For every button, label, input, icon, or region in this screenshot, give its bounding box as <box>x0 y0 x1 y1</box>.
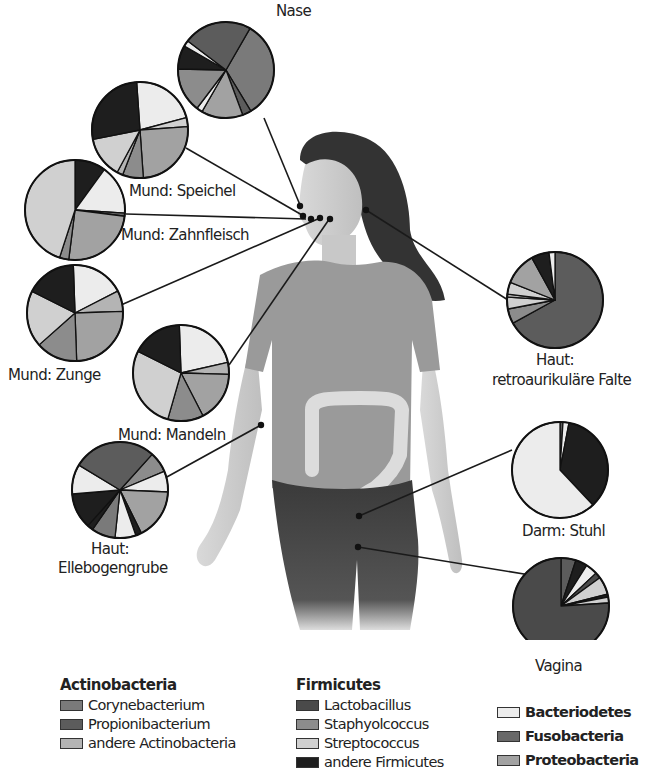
site-marker <box>258 422 264 428</box>
site-marker <box>300 213 306 219</box>
label-ellbogen1: Haut: <box>91 540 129 558</box>
legend-label: Corynebacterium <box>88 696 205 715</box>
pie-slice-prot <box>140 127 188 178</box>
pie-vagina <box>513 558 609 640</box>
legend-group-title: Actinobacteria <box>60 676 236 695</box>
legend-item-prop: Propionibacterium <box>60 715 236 734</box>
legend-item-lact: Lactobacillus <box>296 696 444 715</box>
site-marker <box>356 513 362 519</box>
legend-item-stap: Staphyolcoccus <box>296 715 444 734</box>
pie-mund-speichel <box>92 82 188 178</box>
legend-item-fuso: Fusobacteria <box>497 724 639 748</box>
legend-swatch <box>497 755 520 766</box>
microbiome-figure: NaseMund: SpeichelMund: ZahnfleischMund:… <box>0 0 647 784</box>
pie-mund-zunge <box>27 265 123 361</box>
legend-item-firo: andere Firmicutes <box>296 753 444 772</box>
legend-swatch <box>60 719 83 730</box>
label-zunge: Mund: Zunge <box>8 366 101 384</box>
legend-item-bact: Bacteriodetes <box>497 700 639 724</box>
legend-swatch <box>296 757 319 768</box>
legend-label: Bacteriodetes <box>525 703 631 722</box>
pie-mund-zahnfleisch <box>25 160 125 260</box>
shirt-shape <box>245 261 440 498</box>
site-marker <box>308 216 314 222</box>
label-nase: Nase <box>276 2 311 20</box>
label-ellbogen2: Ellebogengrube <box>58 559 168 577</box>
site-marker <box>363 207 369 213</box>
legend-firmicutes: Firmicutes LactobacillusStaphyolcoccusSt… <box>296 676 444 772</box>
pie-nase <box>178 22 274 118</box>
legend-label: Lactobacillus <box>324 696 411 715</box>
site-marker <box>327 216 333 222</box>
pie-darm-stuhl <box>512 422 608 518</box>
legend-label: andere Actinobacteria <box>88 734 236 753</box>
legend-swatch <box>296 719 319 730</box>
pie-haut-ellebogengrube <box>72 442 168 538</box>
site-marker <box>355 544 361 550</box>
pie-haut-retroaurikuläre-falte <box>507 252 603 348</box>
legend-label: Staphyolcoccus <box>324 715 429 734</box>
legend-label: Streptococcus <box>324 734 419 753</box>
legend-swatch <box>497 731 520 742</box>
leader-line <box>126 214 306 219</box>
legend-item-stre: Streptococcus <box>296 734 444 753</box>
pie-slice-firo <box>92 82 140 139</box>
legend-swatch <box>296 700 319 711</box>
label-retro1: Haut: <box>536 351 574 369</box>
legend-other-phyla: BacteriodetesFusobacteriaProteobacteria <box>497 700 639 772</box>
label-mandeln: Mund: Mandeln <box>118 426 226 444</box>
legend-actinobacteria: Actinobacteria CorynebacteriumPropioniba… <box>60 676 236 753</box>
legend-swatch <box>60 738 83 749</box>
legend-swatch <box>296 738 319 749</box>
pie-mund-mandeln <box>133 325 229 421</box>
label-zahnfleisch: Mund: Zahnfleisch <box>121 226 249 244</box>
legend-swatch <box>60 700 83 711</box>
legend-label: Fusobacteria <box>525 727 623 746</box>
legend-label: andere Firmicutes <box>324 753 444 772</box>
legend-item-acto: andere Actinobacteria <box>60 734 236 753</box>
legend-label: Propionibacterium <box>88 715 210 734</box>
label-speichel: Mund: Speichel <box>129 182 236 200</box>
legend-label: Proteobacteria <box>525 751 639 770</box>
legend-swatch <box>497 707 520 718</box>
leader-line <box>264 118 300 205</box>
label-retro2: retroaurikuläre Falte <box>492 371 631 389</box>
site-marker <box>297 203 303 209</box>
legend-group-title: Firmicutes <box>296 676 444 695</box>
legend-item-cory: Corynebacterium <box>60 696 236 715</box>
pie-slice-prot <box>69 210 125 260</box>
label-stuhl: Darm: Stuhl <box>522 522 605 540</box>
jeans-shape <box>272 480 418 630</box>
site-marker <box>317 215 323 221</box>
legend-item-prot: Proteobacteria <box>497 748 639 772</box>
label-vagina: Vagina <box>535 657 582 675</box>
